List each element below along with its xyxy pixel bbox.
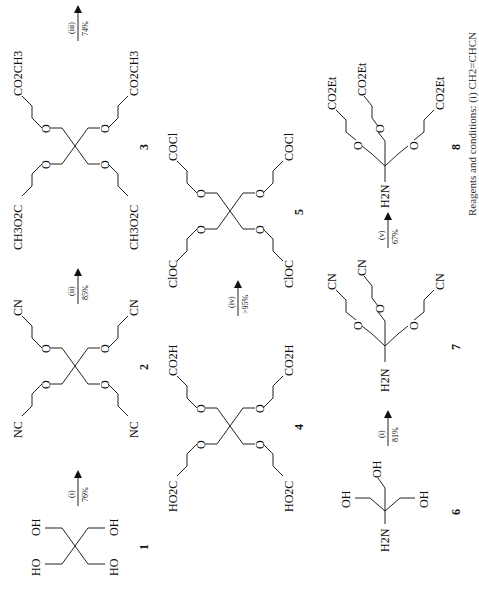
compound-7: O O O H2N CN CN CN 7 — [325, 259, 463, 392]
yield-label: 67% — [391, 229, 400, 244]
group-5-b: COCl — [166, 132, 180, 161]
yield-label: 74% — [81, 21, 90, 36]
group-8-a: CO2Et — [325, 76, 339, 110]
group-3-c: CH3O2C — [127, 205, 141, 250]
svg-text:O: O — [39, 344, 53, 353]
svg-text:O: O — [98, 160, 112, 169]
compound-3: O O O O CH3O2C CO2CH3 CH3O2C CO2CH3 3 — [11, 51, 151, 250]
group-8-c: CO2Et — [433, 76, 447, 110]
group-6-amine: H2N — [378, 528, 392, 552]
group-6-a: OH — [339, 490, 353, 508]
svg-text:O: O — [407, 321, 421, 330]
compound-5: O O O O ClOC COCl ClOC COCl 5 — [166, 132, 306, 288]
yield-label: >95% — [241, 294, 250, 314]
compound-number-3: 3 — [137, 144, 151, 150]
reaction-scheme: HO OH HO OH 1 (i) 76% O O O O NC CN NC C… — [0, 0, 479, 606]
group-3-d: CO2CH3 — [127, 51, 141, 96]
group-4-a: HO2C — [166, 481, 180, 512]
group-4-d: CO2H — [282, 344, 296, 376]
svg-text:O: O — [373, 304, 387, 313]
group-2-a: NC — [11, 421, 25, 438]
compound-number-6: 6 — [449, 509, 463, 515]
reagent-label: (iv) — [227, 296, 236, 308]
group-7-amine: H2N — [378, 368, 392, 392]
svg-text:O: O — [98, 380, 112, 389]
scheme-drawing: HO OH HO OH 1 (i) 76% O O O O NC CN NC C… — [0, 0, 479, 606]
compound-number-2: 2 — [137, 364, 151, 370]
reagent-label: (i) — [67, 490, 76, 498]
reagent-label: (v) — [377, 230, 386, 240]
group-7-a: CN — [325, 273, 339, 290]
arrow-iv: (iv) >95% — [227, 280, 250, 316]
reagent-label: (iii) — [67, 22, 76, 34]
yield-label: 76% — [81, 487, 90, 502]
arrow-1-to-2: (i) 76% — [67, 470, 90, 506]
compound-number-8: 8 — [449, 144, 463, 150]
svg-text:O: O — [194, 225, 208, 234]
svg-text:O: O — [351, 141, 365, 150]
compound-1: HO OH HO OH 1 — [29, 518, 151, 576]
group-1-c: HO — [107, 558, 121, 576]
svg-text:O: O — [39, 380, 53, 389]
compound-4: O O O O HO2C CO2H HO2C CO2H 4 — [166, 344, 306, 512]
svg-text:O: O — [98, 344, 112, 353]
svg-text:O: O — [194, 440, 208, 449]
svg-text:O: O — [253, 189, 267, 198]
compound-number-1: 1 — [137, 544, 151, 550]
reagent-label: (i) — [377, 430, 386, 438]
svg-text:O: O — [194, 404, 208, 413]
group-4-c: HO2C — [282, 481, 296, 512]
compound-6: H2N OH OH OH 6 — [339, 460, 463, 552]
group-6-b: OH — [370, 460, 384, 478]
compound-8: O O O H2N CO2Et CO2Et CO2Et 8 — [325, 62, 463, 208]
yield-label: 81% — [391, 427, 400, 442]
group-7-c: CN — [433, 273, 447, 290]
yield-label: 85% — [81, 285, 90, 300]
group-4-b: CO2H — [166, 344, 180, 376]
arrow-2-to-3: (ii) 85% — [67, 268, 90, 304]
svg-text:O: O — [194, 189, 208, 198]
svg-text:O: O — [253, 440, 267, 449]
group-7-b: CN — [355, 259, 369, 276]
group-2-b: CN — [11, 299, 25, 316]
svg-text:O: O — [253, 225, 267, 234]
group-5-c: ClOC — [282, 260, 296, 288]
svg-text:O: O — [373, 124, 387, 133]
group-8-b: CO2Et — [355, 62, 369, 96]
arrow-6-to-7: (i) 81% — [377, 410, 400, 446]
svg-text:O: O — [253, 404, 267, 413]
svg-text:O: O — [407, 141, 421, 150]
group-5-a: ClOC — [166, 260, 180, 288]
compound-number-5: 5 — [292, 209, 306, 215]
reagent-label: (ii) — [67, 286, 76, 296]
svg-text:O: O — [351, 321, 365, 330]
arrow-3-to-4: (iii) 74% — [67, 5, 90, 41]
group-1-d: OH — [107, 518, 121, 536]
compound-number-7: 7 — [449, 344, 463, 350]
scheme-caption: Reagents and conditions: (i) CH2=CHCN — [466, 32, 479, 216]
group-2-d: CN — [127, 299, 141, 316]
compound-2: O O O O NC CN NC CN 2 — [11, 299, 151, 438]
group-3-a: CH3O2C — [11, 205, 25, 250]
group-5-d: COCl — [282, 132, 296, 161]
group-2-c: NC — [127, 421, 141, 438]
svg-text:O: O — [98, 124, 112, 133]
group-1-b: OH — [29, 518, 43, 536]
group-6-c: OH — [417, 490, 431, 508]
svg-text:O: O — [39, 124, 53, 133]
group-8-amine: H2N — [378, 184, 392, 208]
group-1-a: HO — [29, 558, 43, 576]
svg-text:O: O — [39, 160, 53, 169]
compound-number-4: 4 — [292, 424, 306, 430]
group-3-b: CO2CH3 — [11, 51, 25, 96]
arrow-7-to-8: (v) 67% — [377, 212, 400, 248]
